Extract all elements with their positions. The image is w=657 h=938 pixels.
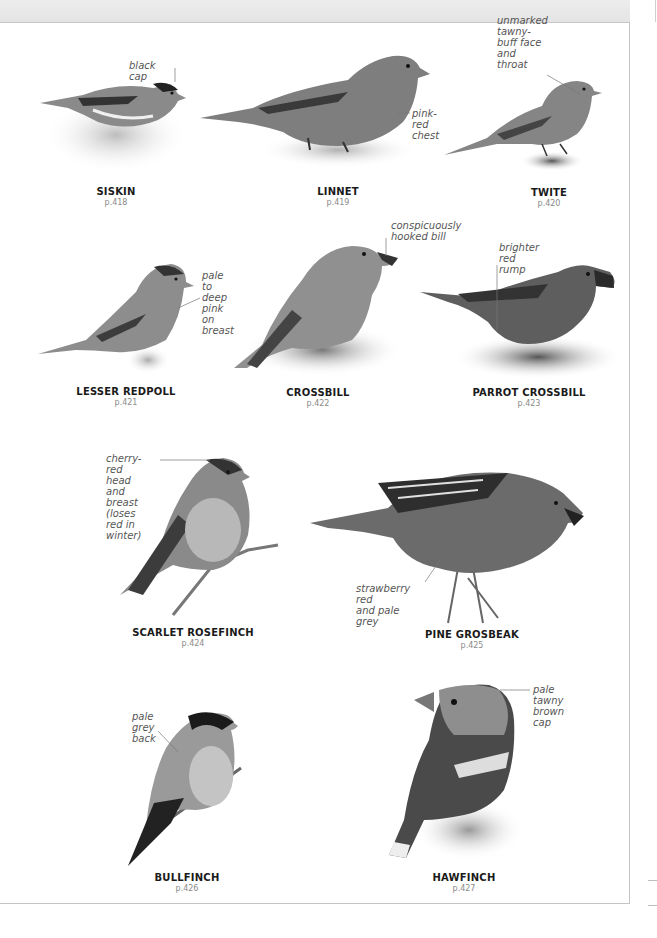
- page-reference: p.426: [176, 884, 199, 893]
- thumb-index-tick: [648, 905, 657, 906]
- siskin-illustration: [38, 70, 193, 180]
- bird-name: HAWFINCH: [433, 872, 496, 883]
- page-reference: p.420: [538, 199, 561, 208]
- annotation-text: black cap: [129, 60, 156, 82]
- annotation-text: brighter red rump: [499, 242, 539, 275]
- pine-grosbeak-illustration: [308, 468, 588, 628]
- hawfinch-illustration: [384, 680, 524, 860]
- annotation-text: pale to deep pink on breast: [202, 270, 234, 336]
- page-reference: p.422: [307, 399, 330, 408]
- annotation-text: strawberry red and pale grey: [356, 583, 410, 627]
- annotation-text: conspicuously hooked bill: [391, 220, 462, 242]
- crossbill-illustration: [232, 240, 402, 380]
- bird-name: CROSSBILL: [286, 387, 349, 398]
- annotation-text: cherry-red head and breast (loses red in…: [106, 453, 141, 541]
- bird-name: BULLFINCH: [155, 872, 220, 883]
- annotation-text: unmarked tawny-buff face and throat: [497, 15, 548, 70]
- parrot-crossbill-illustration: [418, 262, 618, 384]
- annotation-text: pink-red chest: [412, 108, 439, 141]
- twite-illustration: [442, 76, 602, 171]
- page-reference: p.427: [453, 884, 476, 893]
- annotation-text: pale grey back: [132, 711, 156, 744]
- lesser-redpoll-illustration: [36, 262, 196, 377]
- page-border-bottom: [0, 903, 630, 904]
- page-reference: p.423: [518, 399, 541, 408]
- page-reference: p.418: [105, 198, 128, 207]
- bird-name: PARROT CROSSBILL: [472, 387, 585, 398]
- page-reference: p.424: [182, 639, 205, 648]
- bird-name: PINE GROSBEAK: [425, 629, 519, 640]
- page-reference: p.419: [327, 198, 350, 207]
- scarlet-rosefinch-illustration: [118, 455, 283, 620]
- edge-rule: [655, 0, 656, 22]
- page-border-right: [629, 22, 630, 904]
- bird-name: LINNET: [317, 186, 359, 197]
- page-reference: p.425: [461, 641, 484, 650]
- annotation-text: pale tawny brown cap: [533, 684, 564, 728]
- bird-name: LESSER REDPOLL: [76, 386, 175, 397]
- bird-name: SISKIN: [96, 186, 135, 197]
- linnet-illustration: [198, 50, 433, 170]
- thumb-index-tick: [648, 880, 657, 881]
- bird-name: TWITE: [531, 187, 567, 198]
- page-reference: p.421: [115, 398, 138, 407]
- bird-name: SCARLET ROSEFINCH: [132, 627, 254, 638]
